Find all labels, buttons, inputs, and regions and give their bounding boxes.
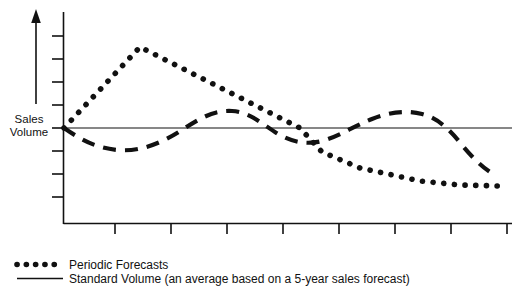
chart-container: Sales Volume — [0, 0, 516, 290]
legend-item-standard-volume: Standard Volume (an average based on a 5… — [17, 272, 410, 286]
y-axis-arrow-icon — [31, 9, 41, 104]
series-cyclical-trend-dashed — [64, 111, 490, 172]
legend-item-periodic-forecasts: Periodic Forecasts — [17, 258, 168, 272]
legend-label-periodic-forecasts: Periodic Forecasts — [69, 258, 168, 272]
series-periodic-forecasts-dotted — [64, 47, 500, 186]
y-axis-label-line1: Sales — [15, 113, 44, 125]
x-axis-ticks — [115, 224, 507, 234]
y-axis-ticks — [52, 36, 63, 197]
y-axis-label-line2: Volume — [10, 126, 48, 138]
legend-label-standard-volume: Standard Volume (an average based on a 5… — [69, 272, 410, 286]
sales-volume-chart: Sales Volume — [0, 0, 516, 290]
y-axis-label: Sales Volume — [10, 113, 48, 138]
chart-legend: Periodic Forecasts Standard Volume (an a… — [17, 258, 410, 286]
